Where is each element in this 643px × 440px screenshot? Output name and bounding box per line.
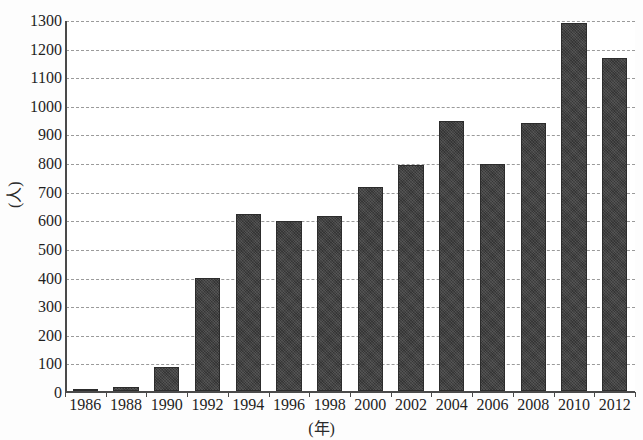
y-axis-line xyxy=(65,21,67,393)
bar xyxy=(480,164,505,391)
x-axis-title: (年) xyxy=(0,415,643,439)
bar xyxy=(154,367,179,391)
bar xyxy=(602,58,627,391)
bar xyxy=(521,123,546,391)
bar xyxy=(195,278,220,391)
bar xyxy=(398,165,423,391)
bar xyxy=(236,214,261,391)
y-axis-tick-label: 800 xyxy=(4,155,62,173)
y-axis-tick-label: 700 xyxy=(4,184,62,202)
bar xyxy=(561,23,586,391)
y-axis-tick-label: 900 xyxy=(4,126,62,144)
y-axis-tick-label: 1200 xyxy=(4,41,62,59)
y-axis-tick-label: 1000 xyxy=(4,98,62,116)
y-axis-tick-label: 500 xyxy=(4,241,62,259)
y-axis-tick-label: 300 xyxy=(4,298,62,316)
bar xyxy=(439,121,464,391)
y-axis-tick-label: 100 xyxy=(4,355,62,373)
y-axis-tick-label: 1100 xyxy=(4,69,62,87)
y-axis-tick-label: 200 xyxy=(4,327,62,345)
bar xyxy=(317,216,342,391)
plot-area xyxy=(65,21,635,393)
y-axis-tick-label: 1300 xyxy=(4,12,62,30)
bar xyxy=(358,187,383,391)
y-axis-tick-label: 0 xyxy=(4,384,62,402)
x-axis-line xyxy=(65,391,635,393)
y-axis-tick-label: 600 xyxy=(4,212,62,230)
x-axis-tick-label: 2012 xyxy=(585,396,643,414)
y-axis-tick-label: 400 xyxy=(4,270,62,288)
bar xyxy=(276,221,301,391)
y-axis-tick-labels: 0100200300400500600700800900100011001200… xyxy=(0,21,62,393)
bars xyxy=(65,21,635,393)
bar-chart: (人) 010020030040050060070080090010001100… xyxy=(0,0,643,440)
